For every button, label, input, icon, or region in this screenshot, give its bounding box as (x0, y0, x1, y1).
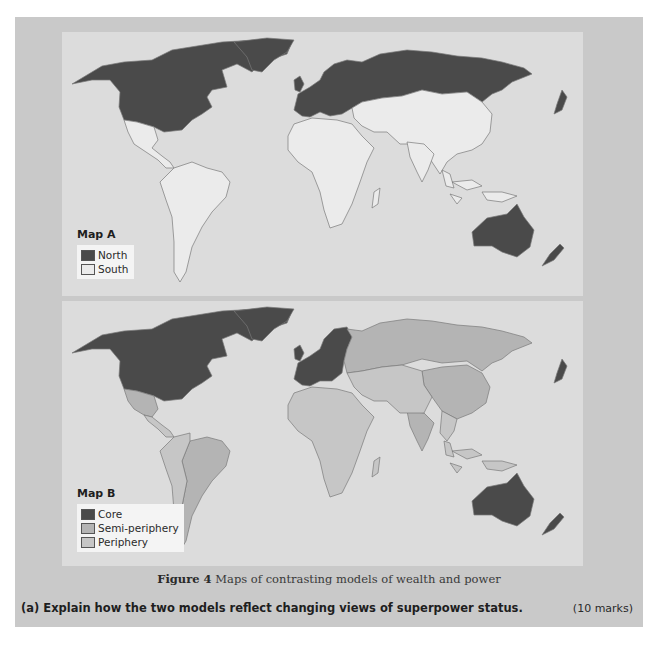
semi-periphery-swatch-icon (81, 523, 95, 534)
legend-item-core: Core (81, 507, 179, 521)
figure-frame: Map A North South (15, 17, 643, 627)
legend-label: South (98, 263, 129, 275)
map-a-world-map (62, 32, 583, 296)
legend-label: Core (98, 508, 122, 520)
question-marks: (10 marks) (573, 602, 633, 615)
legend-label: North (98, 249, 127, 261)
periphery-swatch-icon (81, 537, 95, 548)
figure-caption: Figure 4 Maps of contrasting models of w… (15, 572, 643, 586)
legend-label: Periphery (98, 536, 148, 548)
figure-caption-text: Maps of contrasting models of wealth and… (215, 572, 500, 586)
map-b-title: Map B (77, 487, 115, 500)
legend-label: Semi-periphery (98, 522, 179, 534)
map-a-legend: North South (77, 245, 134, 279)
legend-item-semi-periphery: Semi-periphery (81, 521, 179, 535)
legend-item-north: North (81, 248, 129, 262)
question-text: (a) Explain how the two models reflect c… (21, 601, 523, 615)
legend-item-periphery: Periphery (81, 535, 179, 549)
north-swatch-icon (81, 250, 95, 261)
map-b-panel: Map B Core Semi-periphery Periphery (62, 301, 583, 566)
legend-item-south: South (81, 262, 129, 276)
core-swatch-icon (81, 509, 95, 520)
map-a-title: Map A (77, 228, 116, 241)
figure-number: Figure 4 (157, 572, 211, 586)
map-a-panel: Map A North South (62, 32, 583, 296)
map-b-legend: Core Semi-periphery Periphery (77, 504, 184, 552)
south-swatch-icon (81, 264, 95, 275)
